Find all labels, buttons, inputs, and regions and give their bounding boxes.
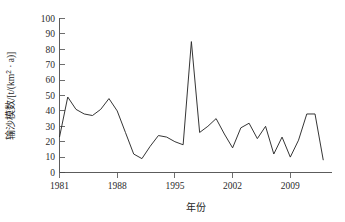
y-tick-label: 50: [46, 91, 56, 101]
y-tick-label: 70: [46, 60, 56, 70]
y-axis-title-unit-prefix: /[t/(km: [6, 73, 17, 100]
x-tick-label: 1981: [50, 181, 69, 191]
y-tick-label: 40: [46, 106, 56, 116]
y-tick-label: 20: [46, 137, 56, 147]
y-tick-label: 90: [46, 29, 56, 39]
x-axis-ticks: [60, 173, 291, 178]
y-axis-title-name: 输沙模数: [4, 100, 16, 140]
y-tick-label: 30: [46, 122, 56, 132]
y-tick-label: 100: [41, 14, 56, 24]
y-tick-label: 60: [46, 75, 56, 85]
chart-figure: 0 10 20 30 40 50 60 70 80 90 100 1981 19…: [0, 0, 345, 222]
x-tick-label: 1995: [165, 181, 184, 191]
line-chart: 0 10 20 30 40 50 60 70 80 90 100 1981 19…: [0, 0, 345, 222]
y-tick-label: 0: [50, 168, 55, 178]
x-tick-label: 2002: [223, 181, 242, 191]
series-line-sediment-modulus: [60, 42, 324, 161]
x-tick-label: 1988: [108, 181, 127, 191]
y-tick-label: 80: [46, 45, 56, 55]
y-axis-tick-labels: 0 10 20 30 40 50 60 70 80 90 100: [41, 14, 56, 178]
x-tick-label: 2009: [281, 181, 300, 191]
y-axis-title: 输沙模数/[t/(km2 · a)]: [4, 52, 17, 140]
x-axis-title: 年份: [186, 201, 206, 213]
y-axis-title-unit-suffix: · a)]: [6, 52, 17, 70]
svg-text:输沙模数/[t/(km2 · a)]: 输沙模数/[t/(km2 · a)]: [4, 52, 17, 140]
x-axis-tick-labels: 1981 1988 1995 2002 2009: [50, 181, 300, 191]
y-tick-label: 10: [46, 152, 56, 162]
y-axis-ticks: [60, 19, 65, 173]
